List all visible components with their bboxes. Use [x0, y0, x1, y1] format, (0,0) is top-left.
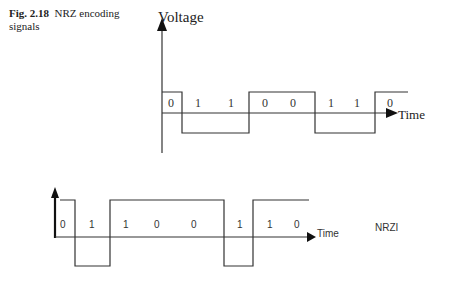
- nrzi-bit: 0: [154, 219, 160, 230]
- nrzi-bit: 0: [294, 219, 300, 230]
- nrz-bit: 0: [290, 96, 296, 110]
- nrz-bit: 1: [354, 96, 360, 110]
- nrzi-bit: 1: [123, 219, 129, 230]
- nrz-voltage-label: Voltage: [158, 9, 204, 25]
- nrzi-bit-labels: 0 1 1 0 0 1 1 0: [60, 219, 300, 230]
- nrzi-bit: 0: [60, 219, 66, 230]
- nrzi-time-axis-arrow-icon: [307, 232, 316, 242]
- nrz-diagram: [157, 18, 408, 153]
- nrz-bit: 0: [168, 96, 174, 110]
- nrzi-label: NRZI: [375, 222, 398, 233]
- nrz-bit: 0: [262, 96, 268, 110]
- nrzi-waveform: [60, 200, 309, 266]
- nrzi-bit: 0: [191, 219, 197, 230]
- nrzi-bit: 1: [237, 219, 243, 230]
- nrzi-voltage-axis-arrow-icon: [51, 187, 59, 198]
- nrz-bit: 0: [387, 96, 393, 110]
- nrz-bit: 1: [195, 96, 201, 110]
- nrzi-time-label: Time: [317, 228, 339, 239]
- nrz-bit-labels: 0 1 1 0 0 1 1 0: [168, 96, 393, 110]
- nrz-nrzi-diagram: Voltage Time 0 1 1 0 0 1 1 0 Time NRZI 0…: [0, 0, 456, 281]
- nrz-bit: 1: [328, 96, 334, 110]
- nrz-bit: 1: [228, 96, 234, 110]
- nrz-time-label: Time: [398, 107, 425, 122]
- nrzi-bit: 1: [89, 219, 95, 230]
- nrzi-bit: 1: [267, 219, 273, 230]
